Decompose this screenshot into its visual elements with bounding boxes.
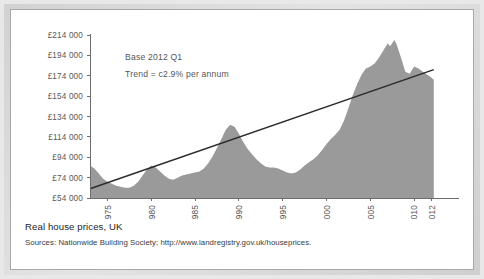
y-axis-tick-label: £194 000 bbox=[48, 51, 84, 60]
real-house-prices-chart: £214 000£194 000£174 000£154 000£134 000… bbox=[11, 10, 475, 220]
y-axis-tick-label: £154 000 bbox=[48, 92, 84, 101]
annotation-trend-rate: Trend = c2.9% per annum bbox=[125, 69, 229, 79]
x-axis-tick-label: 2005 bbox=[367, 205, 376, 220]
x-axis-tick-label: 1990 bbox=[235, 205, 244, 220]
area-fill-path bbox=[90, 40, 434, 198]
y-axis-tick-label: £174 000 bbox=[48, 72, 84, 81]
y-axis-tick-label: £94 000 bbox=[52, 153, 83, 162]
y-axis-tick-label: £74 000 bbox=[52, 174, 83, 183]
y-axis-tick-labels: £214 000£194 000£174 000£154 000£134 000… bbox=[48, 31, 90, 203]
y-axis-tick-label: £134 000 bbox=[48, 113, 84, 122]
area-series bbox=[90, 40, 434, 198]
y-axis-tick-label: £214 000 bbox=[48, 31, 84, 40]
x-axis-tick-label: 1980 bbox=[148, 205, 157, 220]
chart-plot-area: £214 000£194 000£174 000£154 000£134 000… bbox=[11, 10, 475, 220]
figure-caption-title: Real house prices, UK bbox=[25, 222, 461, 233]
x-axis-tick-label: 1995 bbox=[279, 205, 288, 220]
x-axis-tick-label: 1985 bbox=[191, 205, 200, 220]
y-axis-tick-label: £54 000 bbox=[52, 194, 83, 203]
x-axis-tick-label: 2000 bbox=[323, 205, 332, 220]
figure-card: £214 000£194 000£174 000£154 000£134 000… bbox=[10, 9, 474, 270]
figure-sources: Sources: Nationwide Building Society; ht… bbox=[25, 239, 461, 248]
caption-block: Real house prices, UK Sources: Nationwid… bbox=[25, 222, 461, 248]
annotation-base-period: Base 2012 Q1 bbox=[125, 52, 182, 62]
x-axis-tick-labels: 197519801985199019952000200520102012 bbox=[104, 198, 437, 220]
x-axis-tick-label: 2010 bbox=[410, 205, 419, 220]
y-axis-tick-label: £114 000 bbox=[48, 133, 83, 142]
x-axis-tick-label: 1975 bbox=[104, 205, 113, 220]
figure-root: £214 000£194 000£174 000£154 000£134 000… bbox=[0, 0, 484, 279]
x-axis-tick-label: 2012 bbox=[428, 205, 437, 220]
